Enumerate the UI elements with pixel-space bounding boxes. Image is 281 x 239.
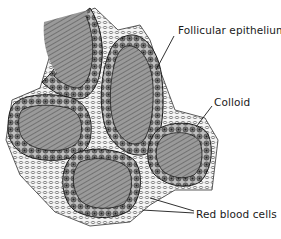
follicle-left (8, 95, 91, 161)
follicle-right (148, 123, 212, 186)
follicle-top-left (42, 8, 102, 99)
leader-red-blood-cells-1 (150, 198, 194, 211)
thyroid-follicle-diagram: Follicular epithelium Colloid Red blood … (0, 0, 281, 239)
leader-follicular-epithelium (156, 36, 174, 70)
label-red-blood-cells: Red blood cells (196, 208, 277, 220)
follicle-bottom (63, 149, 141, 217)
leader-red-blood-cells-2 (142, 210, 194, 213)
label-colloid: Colloid (214, 96, 250, 108)
label-follicular-epithelium: Follicular epithelium (178, 24, 281, 36)
